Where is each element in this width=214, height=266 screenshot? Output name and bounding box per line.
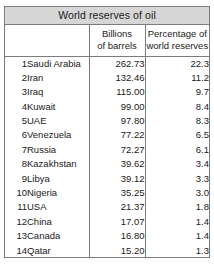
cell-percentage-of-world-reserves: 1.3	[145, 243, 209, 257]
cell-billions-of-barrels: 35.25	[89, 186, 145, 200]
table-row: 7Russia72.276.1	[5, 142, 209, 156]
cell-billions-of-barrels: 99.00	[89, 99, 145, 113]
cell-percentage-of-world-reserves: 1.4	[145, 229, 209, 243]
cell-percentage-of-world-reserves: 11.2	[145, 70, 209, 84]
cell-rank: 12	[5, 214, 27, 228]
cell-billions-of-barrels: 262.73	[89, 56, 145, 70]
cell-billions-of-barrels: 77.22	[89, 128, 145, 142]
cell-rank: 6	[5, 128, 27, 142]
cell-percentage-of-world-reserves: 1.8	[145, 200, 209, 214]
cell-country: Canada	[27, 229, 89, 243]
table-row: 8Kazakhstan39.623.4	[5, 157, 209, 171]
column-header-percentage-line2: world reserves	[146, 40, 208, 51]
column-header-billions: Billions of barrels	[89, 24, 145, 56]
cell-rank: 7	[5, 142, 27, 156]
cell-billions-of-barrels: 16.80	[89, 229, 145, 243]
table-head: World reserves of oil Billions of barrel…	[5, 7, 209, 56]
cell-billions-of-barrels: 15.20	[89, 243, 145, 257]
cell-rank: 8	[5, 157, 27, 171]
cell-percentage-of-world-reserves: 1.4	[145, 214, 209, 228]
table-row: 13Canada16.801.4	[5, 229, 209, 243]
table-row: 2Iran132.4611.2	[5, 70, 209, 84]
cell-rank: 4	[5, 99, 27, 113]
cell-country: China	[27, 214, 89, 228]
table-body: 1Saudi Arabia262.7322.32Iran132.4611.23I…	[5, 56, 209, 257]
cell-percentage-of-world-reserves: 8.3	[145, 114, 209, 128]
table-row: 5UAE97.808.3	[5, 114, 209, 128]
world-oil-reserves-table: World reserves of oil Billions of barrel…	[4, 6, 210, 258]
cell-country: Nigeria	[27, 186, 89, 200]
cell-percentage-of-world-reserves: 9.7	[145, 85, 209, 99]
cell-country: Russia	[27, 142, 89, 156]
cell-country: Kuwait	[27, 99, 89, 113]
column-header-billions-line1: Billions	[102, 28, 132, 39]
cell-rank: 2	[5, 70, 27, 84]
cell-billions-of-barrels: 97.80	[89, 114, 145, 128]
cell-percentage-of-world-reserves: 6.1	[145, 142, 209, 156]
cell-country: USA	[27, 200, 89, 214]
column-header-country	[27, 24, 89, 56]
cell-percentage-of-world-reserves: 6.5	[145, 128, 209, 142]
cell-country: Libya	[27, 171, 89, 185]
page-root: World reserves of oil Billions of barrel…	[0, 0, 214, 266]
cell-billions-of-barrels: 39.12	[89, 171, 145, 185]
cell-rank: 14	[5, 243, 27, 257]
cell-percentage-of-world-reserves: 3.4	[145, 157, 209, 171]
cell-country: Iraq	[27, 85, 89, 99]
cell-billions-of-barrels: 21.37	[89, 200, 145, 214]
cell-country: Iran	[27, 70, 89, 84]
table-row: 11USA21.371.8	[5, 200, 209, 214]
data-table: World reserves of oil Billions of barrel…	[5, 7, 209, 257]
table-title: World reserves of oil	[5, 7, 209, 24]
cell-billions-of-barrels: 72.27	[89, 142, 145, 156]
column-header-row: Billions of barrels Percentage of world …	[5, 24, 209, 56]
column-header-billions-line2: of barrels	[97, 40, 137, 51]
cell-billions-of-barrels: 39.62	[89, 157, 145, 171]
table-row: 3Iraq115.009.7	[5, 85, 209, 99]
cell-rank: 5	[5, 114, 27, 128]
cell-percentage-of-world-reserves: 22.3	[145, 56, 209, 70]
title-row: World reserves of oil	[5, 7, 209, 24]
cell-rank: 13	[5, 229, 27, 243]
cell-country: Kazakhstan	[27, 157, 89, 171]
cell-percentage-of-world-reserves: 3.3	[145, 171, 209, 185]
cell-rank: 3	[5, 85, 27, 99]
column-header-percentage: Percentage of world reserves	[145, 24, 209, 56]
cell-country: UAE	[27, 114, 89, 128]
cell-rank: 10	[5, 186, 27, 200]
cell-percentage-of-world-reserves: 3.0	[145, 186, 209, 200]
table-row: 4Kuwait99.008.4	[5, 99, 209, 113]
cell-billions-of-barrels: 132.46	[89, 70, 145, 84]
cell-billions-of-barrels: 17.07	[89, 214, 145, 228]
cell-percentage-of-world-reserves: 8.4	[145, 99, 209, 113]
table-row: 12China17.071.4	[5, 214, 209, 228]
cell-country: Qatar	[27, 243, 89, 257]
table-row: 10Nigeria35.253.0	[5, 186, 209, 200]
cell-rank: 9	[5, 171, 27, 185]
cell-rank: 11	[5, 200, 27, 214]
table-row: 14Qatar15.201.3	[5, 243, 209, 257]
table-row: 9Libya39.123.3	[5, 171, 209, 185]
cell-billions-of-barrels: 115.00	[89, 85, 145, 99]
table-row: 6Venezuela77.226.5	[5, 128, 209, 142]
column-header-percentage-line1: Percentage of	[148, 28, 207, 39]
table-row: 1Saudi Arabia262.7322.3	[5, 56, 209, 70]
cell-rank: 1	[5, 56, 27, 70]
cell-country: Venezuela	[27, 128, 89, 142]
cell-country: Saudi Arabia	[27, 56, 89, 70]
column-header-rank	[5, 24, 27, 56]
